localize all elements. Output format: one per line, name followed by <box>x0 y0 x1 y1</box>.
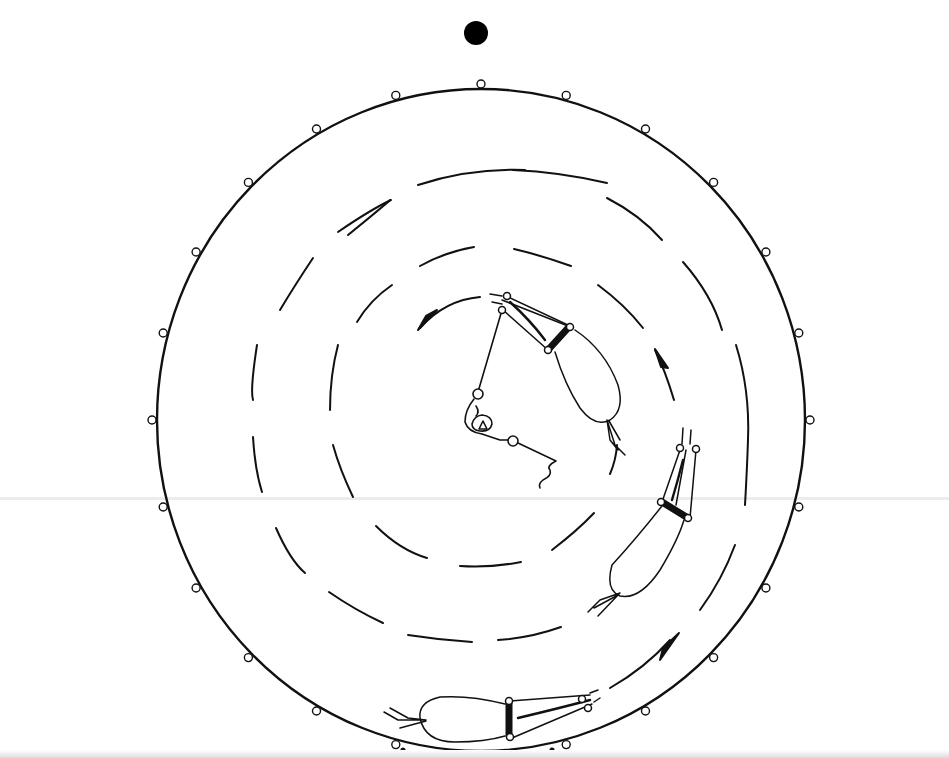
track-loop <box>562 91 570 99</box>
track-loop <box>392 741 400 749</box>
diagram-canvas <box>0 0 949 758</box>
track-loop <box>159 503 167 511</box>
track-loop <box>244 654 252 662</box>
bag-device-top <box>490 293 625 456</box>
track-loop <box>313 707 321 715</box>
track-loop <box>795 503 803 511</box>
track-loop <box>477 80 485 88</box>
track-loop <box>562 741 570 749</box>
track-loop <box>148 416 156 424</box>
track-loop <box>192 248 200 256</box>
inner-dashed-ring <box>330 247 643 567</box>
arrow-right <box>655 349 674 400</box>
track-loop <box>762 248 770 256</box>
track-loop <box>642 707 650 715</box>
track-loop <box>806 416 814 424</box>
outer-dashed-ring <box>252 170 748 642</box>
top-marker-dot <box>464 21 488 45</box>
bag-device-right <box>588 428 700 616</box>
track-loop <box>244 178 252 186</box>
bag-device-bottom <box>384 690 600 742</box>
track-loop <box>392 91 400 99</box>
track-loop <box>159 329 167 337</box>
arrow-top-left <box>418 297 480 330</box>
arrow-bottom-right <box>610 633 679 688</box>
track-loop <box>710 654 718 662</box>
scan-bottom-edge <box>0 750 949 758</box>
track-loop <box>642 125 650 133</box>
track-loop <box>313 125 321 133</box>
outer-track-circle <box>157 89 805 751</box>
track-loop <box>710 178 718 186</box>
track-loop <box>762 584 770 592</box>
track-loop <box>192 584 200 592</box>
track-loop <box>795 329 803 337</box>
